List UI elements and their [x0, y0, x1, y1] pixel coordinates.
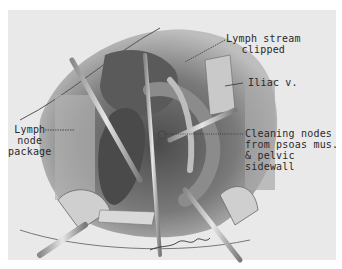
- label-lymph-node-package: Lymph node package: [8, 124, 52, 157]
- label-cleaning-nodes: Cleaning nodes from psoas mus. & pelvic …: [245, 128, 342, 172]
- label-lymph-stream: Lymph stream clipped: [226, 33, 301, 55]
- label-iliac-vein: Iliac v.: [248, 77, 298, 88]
